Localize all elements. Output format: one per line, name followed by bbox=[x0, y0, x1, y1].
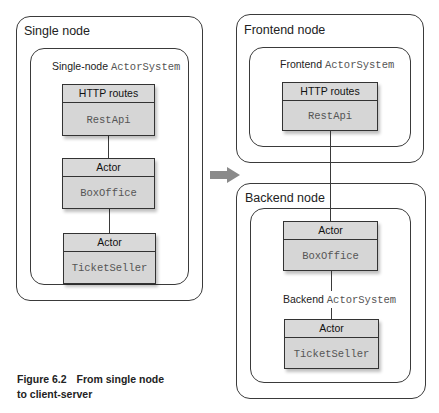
single-node-label: Single node bbox=[24, 24, 90, 38]
component-header: Actor bbox=[285, 320, 378, 338]
connector-line bbox=[331, 271, 332, 291]
component-header: Actor bbox=[64, 234, 155, 252]
single-node-system-label: Single-node ActorSystem bbox=[52, 60, 180, 73]
component-name: RestApi bbox=[63, 103, 154, 137]
component-box-boxoffice: Actor BoxOffice bbox=[62, 158, 155, 209]
caption-line-2: to client-server bbox=[17, 388, 92, 400]
frontend-system-label: Frontend ActorSystem bbox=[280, 58, 394, 71]
system-label-prefix: Backend bbox=[283, 293, 324, 305]
component-box-boxoffice: Actor BoxOffice bbox=[283, 221, 378, 271]
system-label-code: ActorSystem bbox=[111, 61, 180, 73]
figure-number: Figure 6.2 bbox=[17, 373, 67, 385]
right-arrow-icon bbox=[210, 167, 240, 183]
connector-line bbox=[109, 208, 110, 233]
component-box-ticketseller: Actor TicketSeller bbox=[63, 233, 156, 284]
component-box-http-routes: HTTP routes RestApi bbox=[62, 84, 155, 136]
component-header: Actor bbox=[284, 222, 377, 240]
caption-line-1: From single node bbox=[77, 373, 165, 385]
component-header: HTTP routes bbox=[283, 83, 377, 101]
system-label-code: ActorSystem bbox=[327, 294, 396, 306]
component-header: Actor bbox=[63, 159, 154, 177]
backend-system-label: Backend ActorSystem bbox=[282, 293, 397, 306]
component-name: BoxOffice bbox=[284, 240, 377, 272]
system-label-prefix: Single-node bbox=[52, 60, 108, 72]
component-name: BoxOffice bbox=[63, 177, 154, 210]
connector-line bbox=[330, 131, 331, 221]
component-box-ticketseller: Actor TicketSeller bbox=[284, 319, 379, 369]
system-label-prefix: Frontend bbox=[280, 58, 322, 70]
system-label-code: ActorSystem bbox=[325, 59, 394, 71]
connector-line bbox=[108, 135, 109, 158]
frontend-node-label: Frontend node bbox=[244, 23, 325, 37]
component-name: TicketSeller bbox=[64, 252, 155, 285]
figure-caption: Figure 6.2From single node to client-ser… bbox=[17, 372, 164, 402]
backend-node-label: Backend node bbox=[245, 191, 325, 205]
component-box-http-routes: HTTP routes RestApi bbox=[282, 82, 378, 131]
component-name: TicketSeller bbox=[285, 338, 378, 370]
component-name: RestApi bbox=[283, 101, 377, 132]
component-header: HTTP routes bbox=[63, 85, 154, 103]
